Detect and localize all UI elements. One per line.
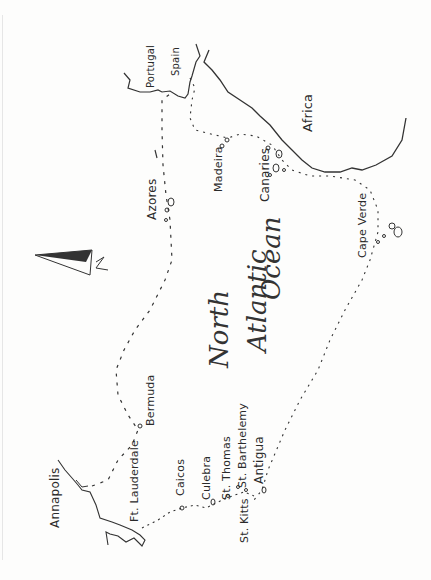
route-map: Portugal Spain Africa Azores Madeira Can… — [0, 0, 431, 580]
label-africa: Africa — [300, 94, 315, 132]
label-cape-verde: Cape Verde — [356, 193, 369, 258]
label-caicos: Caicos — [174, 459, 187, 496]
label-st-thomas: St. Thomas — [220, 436, 233, 500]
label-annapolis: Annapolis — [48, 468, 62, 528]
ocean-label-ocean: Ocean — [258, 216, 284, 300]
north-arrow-icon — [35, 250, 108, 275]
label-st-kitts: St. Kitts — [238, 498, 251, 543]
label-culebra: Culebra — [200, 456, 213, 500]
iberia-coast — [124, 44, 200, 98]
label-portugal: Portugal — [145, 45, 156, 88]
label-canaries: Canaries — [258, 148, 272, 202]
label-azores: Azores — [145, 179, 159, 220]
route-outbound — [92, 94, 172, 486]
label-madeira: Madeira — [212, 146, 225, 192]
label-spain: Spain — [170, 47, 181, 76]
ocean-label-north: North — [206, 290, 232, 368]
label-bermuda: Bermuda — [144, 375, 157, 426]
label-antigua: Antigua — [252, 436, 266, 484]
label-ft-lauderdale: Ft. Lauderdale — [128, 440, 141, 522]
label-st-barthelemy: St. Barthelemy — [236, 403, 249, 488]
